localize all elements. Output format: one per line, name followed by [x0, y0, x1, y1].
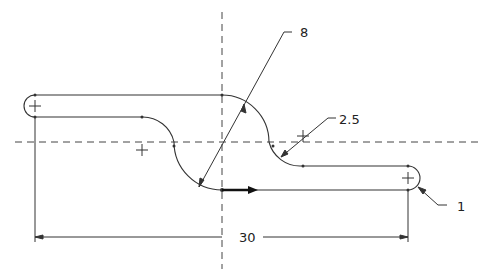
path-direction-arrow — [222, 186, 258, 194]
sketch-canvas — [0, 0, 493, 269]
leader-radius-1 — [418, 187, 447, 205]
leader-radius-8 — [199, 32, 292, 187]
radius-label-1: 1 — [457, 200, 465, 213]
radius-label-8: 8 — [300, 26, 308, 39]
leader-radius-2-5 — [281, 118, 336, 157]
dimension-label-30: 30 — [239, 231, 256, 244]
radius-label-2-5: 2.5 — [339, 113, 360, 126]
